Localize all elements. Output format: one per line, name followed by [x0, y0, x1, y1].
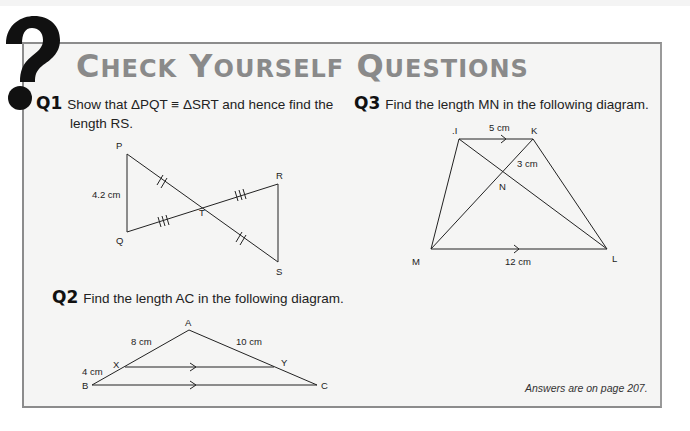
label-x: X	[113, 359, 120, 370]
label-b: B	[82, 380, 88, 391]
answers-note: Answers are on page 207.	[525, 382, 648, 394]
q2-diagram: A B C X Y 8 cm 10 cm 4 cm	[0, 0, 690, 431]
measure-ax: 8 cm	[131, 336, 152, 347]
measure-xb: 4 cm	[82, 366, 103, 377]
label-c: C	[321, 380, 328, 391]
label-y: Y	[281, 357, 288, 368]
measure-ay: 10 cm	[236, 336, 262, 347]
label-a: A	[185, 317, 192, 328]
